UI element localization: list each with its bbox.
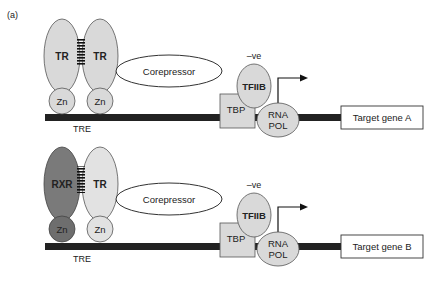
dna-strand-b (45, 243, 345, 250)
panel-b: RXR TR Zn Zn TRE Corepressor TBP TFIIB –… (44, 147, 423, 266)
dna-strand-a (45, 114, 345, 121)
arrowhead-a (300, 75, 308, 82)
negative-label-a: –ve (247, 51, 262, 61)
figure-label: (a) (7, 10, 18, 20)
corepressor-label-b: Corepressor (143, 194, 195, 205)
panel-a: TR TR Zn Zn TRE Corepressor TBP TFIIB –v… (44, 19, 423, 137)
rna-pol-label2-a: POL (268, 120, 287, 131)
tre-label-b: TRE (73, 254, 91, 264)
left-receptor-label-a: TR (55, 51, 69, 62)
right-receptor-label-b: TR (93, 179, 107, 190)
transcription-arrow-a (278, 78, 300, 106)
left-receptor-label-b: RXR (51, 179, 73, 190)
right-zn-label-b: Zn (94, 224, 105, 235)
rna-pol-label1-a: RNA (268, 109, 289, 120)
target-gene-a-label: Target gene A (353, 112, 412, 123)
transcription-arrow-b (278, 207, 300, 235)
tbp-label-b: TBP (227, 233, 245, 244)
tbp-label-a: TBP (227, 104, 245, 115)
dimerization-zipper-b (77, 166, 85, 193)
tfiib-label-a: TFIIB (242, 81, 266, 92)
rna-pol-label2-b: POL (268, 249, 287, 260)
left-zn-label-b: Zn (56, 224, 67, 235)
right-zn-label-a: Zn (94, 96, 105, 107)
corepressor-label-a: Corepressor (143, 66, 195, 77)
arrowhead-b (300, 204, 308, 211)
rna-pol-label1-b: RNA (268, 238, 289, 249)
tre-label-a: TRE (73, 124, 91, 134)
diagram-canvas: (a) TR TR Zn Zn TRE Corepressor TBP TFII… (0, 0, 445, 283)
dimerization-zipper-a (77, 38, 85, 65)
tfiib-label-b: TFIIB (242, 210, 266, 221)
right-receptor-label-a: TR (93, 51, 107, 62)
negative-label-b: –ve (247, 180, 262, 190)
left-zn-label-a: Zn (56, 96, 67, 107)
target-gene-b-label: Target gene B (352, 241, 411, 252)
